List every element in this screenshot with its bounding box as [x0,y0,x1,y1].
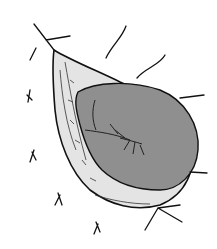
anatomical-illustration [0,0,217,249]
illustration-canvas [0,0,217,249]
